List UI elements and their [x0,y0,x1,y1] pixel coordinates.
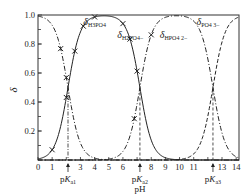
pka-label: pKa3 [205,174,221,185]
x-tick-label: 10 [175,162,184,172]
y-axis: 0.20.40.60.81.0 [24,10,42,146]
x-axis-title: pH [135,184,147,194]
speciation-chart: 0.20.40.60.81.0 0134568910111314 pKa1pKa… [0,0,249,196]
x-tick-label: 13 [218,162,227,172]
x-tick-label: 4 [92,162,97,172]
curve-label: δH3PO4 [83,16,106,28]
x-tick-label: 6 [121,162,125,172]
curve-labels: δH3PO4δH2PO4−δHPO4 2−δPO4 3− [83,16,220,41]
cross-marker [120,21,125,26]
x-tick-label: 0 [36,162,40,172]
curve-label: δHPO4 2− [160,29,188,41]
y-tick-label: 0.8 [24,39,35,49]
x-axis: 0134568910111314 [36,157,241,172]
y-tick-label: 0.6 [24,68,35,78]
pka-arrow-icon [138,163,142,167]
pka-arrow-icon [66,163,70,167]
pka-arrow-icon [211,163,215,167]
x-tick-label: 9 [163,162,167,172]
y-tick-label: 0.2 [24,126,35,136]
cross-marker [50,147,55,152]
y-tick-label: 0.4 [24,97,35,107]
pka-label: pKa1 [60,174,76,185]
curve-label: δPO4 3− [197,16,221,28]
y-tick-label: 1.0 [24,10,35,20]
cross-marker [149,32,154,37]
x-tick-label: 1 [50,162,54,172]
x-tick-label: 14 [232,162,241,172]
x-tick-label: 8 [149,162,153,172]
y-axis-title: δ [7,87,19,93]
curve-label: δH2PO4− [117,29,144,41]
x-tick-label: 3 [78,162,82,172]
x-tick-label: 5 [107,162,111,172]
x-tick-label: 11 [190,162,198,172]
